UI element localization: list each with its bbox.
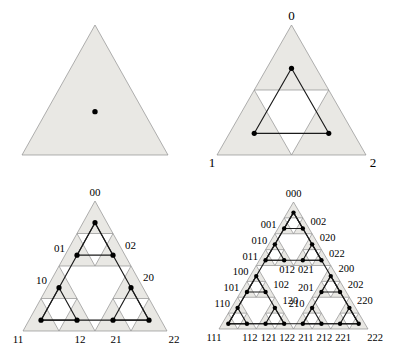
address-label-0: 0: [288, 8, 295, 23]
address-label-001: 001: [261, 219, 277, 230]
centroid-dot-112: [245, 322, 249, 326]
cell-011: [256, 250, 275, 266]
cell-001: [275, 218, 294, 234]
centroid-dot-002: [301, 226, 305, 230]
centroid-dot-012: [282, 258, 286, 262]
cell-211: [294, 313, 313, 329]
address-label-212: 212: [317, 332, 333, 343]
address-label-121: 121: [261, 332, 277, 343]
cell-12: [59, 299, 95, 332]
centroid-dot-211: [301, 322, 305, 326]
cell-221: [331, 313, 350, 329]
cell-000: [284, 202, 303, 218]
cell-22: [131, 299, 167, 332]
cell-111: [219, 313, 238, 329]
cell-00: [77, 201, 113, 234]
centroid-dot-00: [92, 220, 97, 225]
centroid-dot-021: [301, 258, 305, 262]
centroid-dot-210: [310, 306, 314, 310]
diagram-svg: 0120001021020111221220000010020100200110…: [0, 0, 394, 355]
address-label-101: 101: [224, 282, 240, 293]
centroid-dot-02: [110, 253, 115, 258]
address-label-221: 221: [335, 332, 351, 343]
cell-122: [275, 313, 294, 329]
address-label-02: 02: [125, 239, 136, 251]
cell-11: [23, 299, 59, 332]
centroid-dot-201: [319, 290, 323, 294]
centroid-dot-110: [235, 306, 239, 310]
address-label-211: 211: [298, 332, 313, 343]
cell-200: [321, 266, 340, 282]
address-label-102: 102: [273, 279, 289, 290]
centroid-dot-022: [319, 258, 323, 262]
panel-stage-1: 012: [209, 8, 377, 170]
cell-202: [331, 281, 350, 297]
cell-010: [266, 234, 285, 250]
address-label-00: 00: [90, 186, 102, 198]
address-label-112: 112: [242, 332, 257, 343]
address-label-012: 012: [279, 264, 295, 275]
sierpinski-diagram: 0120001021020111221220000010020100200110…: [0, 0, 394, 355]
centroid-dot-101: [245, 290, 249, 294]
address-label-022: 022: [329, 248, 345, 259]
address-label-110: 110: [215, 298, 230, 309]
address-label-010: 010: [251, 235, 267, 246]
cell-212: [312, 313, 331, 329]
centroid-dot-100: [254, 274, 258, 278]
address-label-11: 11: [13, 333, 24, 345]
cell-1: [217, 90, 292, 155]
centroid-dot-212: [319, 322, 323, 326]
address-label-011: 011: [243, 251, 258, 262]
centroid-dot-220: [347, 306, 351, 310]
centroid-dot-001: [282, 226, 286, 230]
address-label-000: 000: [286, 188, 302, 199]
cell-022: [312, 250, 331, 266]
centroid-dot-221: [338, 322, 342, 326]
centroid-dot-102: [263, 290, 267, 294]
centroid-dot-0: [289, 66, 294, 71]
centroid-dot-000: [291, 210, 295, 214]
cell-110: [228, 297, 247, 313]
cell-100: [247, 266, 266, 282]
cell-2: [292, 90, 367, 155]
address-label-100: 100: [233, 266, 249, 277]
centroid-dot-01: [74, 253, 79, 258]
address-label-201: 201: [298, 282, 314, 293]
address-label-12: 12: [75, 333, 86, 345]
address-label-2: 2: [370, 155, 377, 170]
centroid-dot-root: [92, 109, 97, 114]
address-label-22: 22: [169, 333, 180, 345]
address-label-020: 020: [320, 232, 336, 243]
panel-stage-0: [22, 25, 168, 155]
address-label-210: 210: [289, 298, 305, 309]
cell-201: [312, 281, 331, 297]
address-label-002: 002: [310, 216, 326, 227]
cell-222: [349, 313, 368, 329]
cell-102: [256, 281, 275, 297]
centroid-dot-1: [252, 131, 257, 136]
address-label-122: 122: [279, 332, 295, 343]
centroid-dot-200: [329, 274, 333, 278]
address-label-10: 10: [36, 274, 48, 286]
centroid-dot-22: [146, 318, 151, 323]
cell-121: [256, 313, 275, 329]
centroid-dot-20: [128, 285, 133, 290]
cell-21: [95, 299, 131, 332]
address-label-222: 222: [367, 332, 383, 343]
cell-120: [266, 297, 285, 313]
panel-stage-2: 000102102011122122: [13, 186, 180, 345]
centroid-dot-10: [56, 285, 61, 290]
address-label-01: 01: [54, 242, 65, 254]
address-label-202: 202: [348, 279, 364, 290]
address-label-021: 021: [298, 264, 314, 275]
cell-root: [22, 25, 168, 155]
centroid-dot-010: [273, 242, 277, 246]
panel-stage-3: 0000010020100200110220120211002001011022…: [207, 188, 383, 343]
centroid-dot-122: [282, 322, 286, 326]
address-label-111: 111: [207, 332, 222, 343]
centroid-dot-111: [226, 322, 230, 326]
address-label-21: 21: [111, 333, 122, 345]
address-label-1: 1: [209, 155, 216, 170]
centroid-dot-020: [310, 242, 314, 246]
centroid-dot-120: [273, 306, 277, 310]
